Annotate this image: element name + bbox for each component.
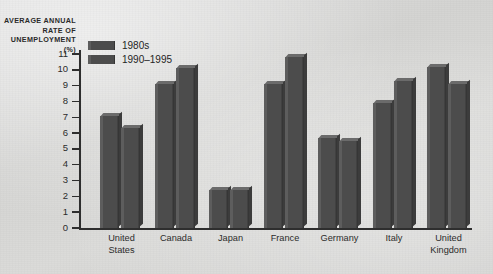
- category-label-3: Japan: [200, 233, 262, 245]
- category-label-4: France: [254, 233, 316, 245]
- bar-group-3: [209, 54, 252, 228]
- bar-group-5: [318, 54, 361, 228]
- y-tick-label-8: 8: [48, 96, 68, 106]
- y-tick-4: [72, 164, 79, 166]
- y-tick-9: [72, 85, 79, 87]
- bar-group-6: [373, 54, 416, 228]
- y-tick-10: [72, 69, 79, 71]
- y-tick-0: [72, 227, 79, 229]
- bar-5-1[interactable]: [318, 138, 337, 228]
- y-tick-5: [72, 148, 79, 150]
- category-label-line: Kingdom: [418, 245, 480, 257]
- y-tick-label-10: 10: [48, 64, 68, 74]
- y-tick-3: [72, 180, 79, 182]
- category-label-6: Italy: [363, 233, 425, 245]
- bar-2-2[interactable]: [176, 68, 195, 228]
- bar-4-2[interactable]: [285, 57, 304, 228]
- y-tick-label-5: 5: [48, 143, 68, 153]
- y-tick-label-11: 11: [48, 49, 68, 59]
- bar-1-1[interactable]: [100, 116, 119, 228]
- category-label-line: Canada: [145, 233, 207, 245]
- bar-2-1[interactable]: [155, 84, 174, 228]
- y-tick-1: [72, 211, 79, 213]
- legend-label: 1980s: [122, 40, 149, 51]
- chart-figure: AVERAGE ANNUAL RATE OF UNEMPLOYMENT (%) …: [0, 0, 493, 274]
- y-tick-label-4: 4: [48, 159, 68, 169]
- bar-6-1[interactable]: [373, 103, 392, 228]
- y-tick-11: [72, 53, 79, 55]
- y-tick-label-0: 0: [48, 223, 68, 233]
- legend-swatch-icon: [88, 41, 115, 50]
- bar-3-2[interactable]: [230, 190, 249, 228]
- category-label-line: France: [254, 233, 316, 245]
- bar-7-2[interactable]: [448, 84, 467, 228]
- legend-item-1[interactable]: 1980s: [88, 40, 172, 51]
- bar-4-1[interactable]: [264, 84, 283, 228]
- category-label-line: United: [91, 233, 153, 245]
- category-label-line: Germany: [309, 233, 371, 245]
- bar-3-1[interactable]: [209, 190, 228, 228]
- bar-group-2: [155, 54, 198, 228]
- category-label-5: Germany: [309, 233, 371, 245]
- bar-6-2[interactable]: [394, 81, 413, 228]
- y-tick-2: [72, 196, 79, 198]
- y-tick-label-6: 6: [48, 128, 68, 138]
- y-tick-label-2: 2: [48, 191, 68, 201]
- category-label-line: United: [418, 233, 480, 245]
- y-tick-label-1: 1: [48, 207, 68, 217]
- category-label-line: Italy: [363, 233, 425, 245]
- category-label-2: Canada: [145, 233, 207, 245]
- category-label-line: States: [91, 245, 153, 257]
- y-tick-8: [72, 101, 79, 103]
- plot-area: [79, 54, 472, 228]
- bar-group-7: [427, 54, 470, 228]
- x-axis-line: [79, 228, 472, 230]
- y-tick-7: [72, 117, 79, 119]
- category-label-7: UnitedKingdom: [418, 233, 480, 256]
- bar-5-2[interactable]: [339, 141, 358, 228]
- category-label-line: Japan: [200, 233, 262, 245]
- bar-1-2[interactable]: [121, 128, 140, 228]
- bar-group-4: [264, 54, 307, 228]
- y-tick-label-7: 7: [48, 112, 68, 122]
- y-tick-label-9: 9: [48, 80, 68, 90]
- category-label-1: UnitedStates: [91, 233, 153, 256]
- y-tick-6: [72, 132, 79, 134]
- bar-7-1[interactable]: [427, 67, 446, 228]
- bar-group-1: [100, 54, 143, 228]
- y-tick-label-3: 3: [48, 175, 68, 185]
